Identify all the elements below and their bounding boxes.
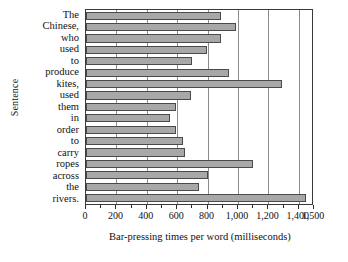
y-axis-tick-label: to bbox=[18, 136, 82, 148]
x-axis-tick-label: 0 bbox=[83, 210, 88, 221]
bar-row bbox=[86, 135, 312, 146]
bar bbox=[86, 183, 199, 191]
x-tick-minor bbox=[191, 205, 192, 208]
x-tick-major bbox=[313, 205, 314, 209]
bar-row bbox=[86, 44, 312, 55]
bar-row bbox=[86, 181, 312, 192]
bar-row bbox=[86, 90, 312, 101]
x-axis-tick-label: 200 bbox=[108, 210, 123, 221]
x-axis-tick-label: 1,500 bbox=[302, 210, 325, 221]
bar-row bbox=[86, 124, 312, 135]
bar-row bbox=[86, 78, 312, 89]
x-tick-minor bbox=[100, 205, 101, 208]
bar bbox=[86, 114, 170, 122]
bar bbox=[86, 57, 192, 65]
x-axis-title: Bar-pressing times per word (millisecond… bbox=[60, 231, 340, 242]
y-axis-tick-label: to bbox=[18, 55, 82, 67]
x-tick-minor bbox=[161, 205, 162, 208]
y-axis-tick-label: produce bbox=[18, 67, 82, 79]
x-tick-major bbox=[267, 205, 268, 209]
y-axis-tick-labels: TheChinese,whousedtoproducekites,usedthe… bbox=[18, 9, 82, 205]
bar-chart: Sentence TheChinese,whousedtoproducekite… bbox=[0, 0, 348, 262]
bar-row bbox=[86, 56, 312, 67]
y-axis-tick-label: who bbox=[18, 32, 82, 44]
x-tick-minor bbox=[131, 205, 132, 208]
bar bbox=[86, 126, 176, 134]
bar bbox=[86, 69, 229, 77]
y-axis-tick-label: used bbox=[18, 90, 82, 102]
x-axis-tick-label: 1,000 bbox=[226, 210, 249, 221]
bar bbox=[86, 34, 221, 42]
y-axis-tick-label: used bbox=[18, 44, 82, 56]
y-axis-tick-label: across bbox=[18, 170, 82, 182]
bar-row bbox=[86, 33, 312, 44]
bar bbox=[86, 148, 185, 156]
bar-row bbox=[86, 21, 312, 32]
bar bbox=[86, 91, 191, 99]
x-tick-minor bbox=[252, 205, 253, 208]
bar-series bbox=[86, 10, 312, 204]
bar-row bbox=[86, 147, 312, 158]
x-tick-major bbox=[115, 205, 116, 209]
x-axis-tick-label: 600 bbox=[169, 210, 184, 221]
bar-row bbox=[86, 170, 312, 181]
plot-area bbox=[85, 9, 313, 205]
y-axis-tick-label: them bbox=[18, 101, 82, 113]
y-axis-tick-label: order bbox=[18, 124, 82, 136]
bar bbox=[86, 103, 176, 111]
bar-row bbox=[86, 10, 312, 21]
x-axis-tick-label: 800 bbox=[199, 210, 214, 221]
y-axis-tick-label: the bbox=[18, 182, 82, 194]
x-tick-minor bbox=[283, 205, 284, 208]
bar bbox=[86, 23, 236, 31]
x-tick-major bbox=[146, 205, 147, 209]
x-tick-major bbox=[176, 205, 177, 209]
x-axis-tick-label: 400 bbox=[138, 210, 153, 221]
y-axis-tick-label: ropes bbox=[18, 159, 82, 171]
x-axis-tick-labels: 02004006008001,0001,2001,4001,500 bbox=[0, 210, 348, 224]
bar-row bbox=[86, 158, 312, 169]
y-axis-tick-label: kites, bbox=[18, 78, 82, 90]
x-tick-major bbox=[298, 205, 299, 209]
bar bbox=[86, 171, 208, 179]
bar bbox=[86, 160, 253, 168]
y-axis-tick-label: carry bbox=[18, 147, 82, 159]
bar bbox=[86, 80, 282, 88]
y-axis-tick-label: The bbox=[18, 9, 82, 21]
x-tick-major bbox=[85, 205, 86, 209]
x-axis-tick-label: 1,200 bbox=[256, 210, 279, 221]
bar bbox=[86, 194, 306, 202]
bar-row bbox=[86, 67, 312, 78]
bar-row bbox=[86, 113, 312, 124]
x-tick-minor bbox=[222, 205, 223, 208]
bar-row bbox=[86, 101, 312, 112]
bar bbox=[86, 46, 207, 54]
bar-row bbox=[86, 193, 312, 204]
x-tick-major bbox=[207, 205, 208, 209]
bar bbox=[86, 12, 221, 20]
y-axis-tick-label: rivers. bbox=[18, 194, 82, 206]
y-axis-tick-label: Chinese, bbox=[18, 21, 82, 33]
y-axis-tick-label: in bbox=[18, 113, 82, 125]
bar bbox=[86, 137, 183, 145]
x-tick-major bbox=[237, 205, 238, 209]
